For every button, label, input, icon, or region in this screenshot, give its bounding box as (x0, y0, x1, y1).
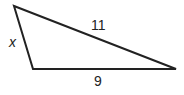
triangle-diagram: x 11 9 (0, 0, 184, 95)
side-label-hypotenuse: 11 (91, 17, 106, 33)
triangle (14, 6, 176, 69)
side-label-left: x (8, 34, 17, 50)
side-label-bottom: 9 (94, 73, 102, 89)
